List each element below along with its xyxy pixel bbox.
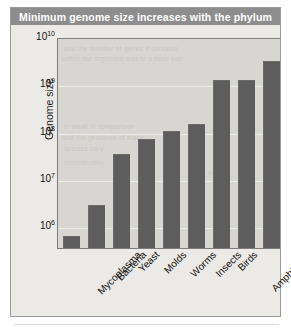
bar-insects — [188, 124, 205, 248]
x-tick-label-worms: Worms — [188, 249, 218, 279]
y-tick-base: 10 — [36, 31, 47, 42]
bar-yeast — [113, 154, 130, 248]
plot-area: and the number of genes it containswithi… — [57, 38, 281, 249]
y-tick-label: 106 — [13, 221, 55, 231]
x-tick-label-amphibians: Amphibians — [269, 249, 291, 294]
y-tick-base: 10 — [40, 126, 51, 137]
y-tick-exponent: 8 — [51, 124, 55, 131]
y-tick-exponent: 7 — [51, 172, 55, 179]
y-tick-base: 10 — [40, 173, 51, 184]
bar-bacteria — [88, 205, 105, 248]
y-tick-label: 109 — [13, 79, 55, 89]
x-tick-label-molds: Molds — [162, 249, 189, 276]
bar-mammals — [263, 61, 280, 248]
bar-molds — [138, 139, 155, 248]
y-tick-base: 10 — [40, 78, 51, 89]
ghost-text: considerably — [64, 159, 104, 166]
bar-amphibians — [238, 80, 255, 248]
figure-panel: Minimum genome size increases with the p… — [10, 7, 281, 317]
bar-birds — [213, 80, 230, 248]
y-tick-exponent: 10 — [47, 30, 55, 37]
ghost-text: within the organism was in a base pair — [62, 55, 184, 62]
y-tick-exponent: 9 — [51, 77, 55, 84]
figure-title: Minimum genome size increases with the p… — [19, 11, 272, 23]
y-tick-base: 10 — [40, 220, 51, 231]
bar-mycoplasma — [63, 236, 80, 248]
y-axis-tick-group: 1010109108107106 — [11, 8, 55, 318]
y-tick-label: 1010 — [13, 32, 55, 42]
y-tick-label: 108 — [13, 127, 55, 137]
ghost-text: is small in comparison — [64, 123, 135, 130]
ghost-text: and the number of genes it contains — [64, 45, 178, 52]
page-bleed-line — [14, 324, 279, 325]
plot-inner: and the number of genes it containswithi… — [58, 39, 280, 248]
y-tick-label: 107 — [13, 174, 55, 184]
bar-worms — [163, 131, 180, 248]
ghost-text: and the genomes of many — [62, 134, 144, 141]
x-axis-tick-group: MycoplasmaBacteriaYeastMoldsWormsInsects… — [57, 249, 281, 319]
ghost-text: species vary — [64, 145, 104, 152]
y-tick-exponent: 6 — [51, 219, 55, 226]
